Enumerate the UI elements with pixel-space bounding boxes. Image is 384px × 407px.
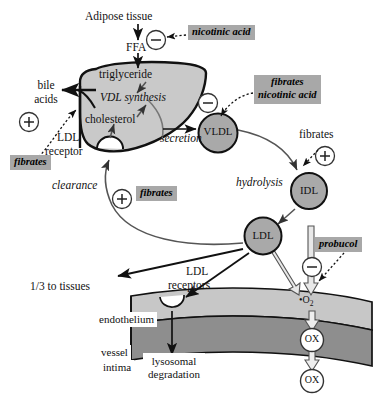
drug-line-fibrates: fibrates	[258, 76, 317, 89]
label-ox-lower: OX	[298, 375, 326, 386]
label-ffa: FFA	[126, 41, 146, 53]
label-one-third-to-tissues: 1/3 to tissues	[30, 280, 90, 292]
label-triglyceride: triglyceride	[99, 68, 152, 80]
label-ldl-receptors-line2: receptors	[168, 279, 210, 291]
drug-fibrates-clearance[interactable]: fibrates	[136, 186, 177, 201]
diagram-vector-layer	[0, 0, 384, 407]
label-vessel-line2: intima	[100, 360, 134, 375]
drug-probucol[interactable]: probucol	[315, 237, 362, 252]
label-vdl-synthesis: VDL synthesis	[100, 91, 166, 103]
dotted-nicotinic-to-ffa	[167, 35, 186, 37]
label-vldl: VLDL	[198, 126, 238, 137]
arrow-ldl-to-tissues	[118, 249, 243, 276]
label-secretion: secretion	[160, 132, 202, 144]
label-idl: IDL	[292, 185, 326, 196]
diagram-canvas: Adipose tissue FFA triglyceride VDL synt…	[0, 0, 384, 407]
arrow-idl-to-ldl	[278, 209, 295, 224]
drug-line-nicotinic-acid: nicotinic acid	[258, 89, 317, 102]
label-hydrolysis: hydrolysis	[236, 176, 283, 188]
label-bile-acids-line2: acids	[28, 93, 64, 105]
label-vessel-line1: vessel	[98, 345, 131, 360]
lysosomal-line1: lysosomal	[148, 355, 200, 368]
label-endothelium: endothelium	[96, 312, 157, 327]
label-ox-upper: OX	[298, 334, 326, 345]
drug-fibrates-nicotinic-acid-secretion[interactable]: fibrates nicotinic acid	[254, 75, 321, 104]
label-ldl-receptors-line1: LDL	[186, 265, 208, 277]
drug-fibrates-hydrolysis[interactable]: fibrates	[299, 128, 333, 140]
label-ldl-receptor-line1: LDL	[57, 131, 79, 143]
arrow-vldl-to-idl	[238, 130, 297, 170]
label-ldl: LDL	[246, 230, 280, 241]
dotted-fibrates-nicotinic-to-secretion	[221, 93, 253, 116]
lysosomal-line2: degradation	[148, 368, 200, 381]
label-cholesterol: cholesterol	[85, 113, 135, 125]
label-superoxide: •O2	[299, 295, 313, 308]
label-adipose-tissue: Adipose tissue	[85, 10, 152, 22]
superoxide-subscript: 2	[310, 299, 314, 308]
drug-fibrates-bile-acids[interactable]: fibrates	[10, 155, 51, 170]
dotted-probucol-to-oxidation	[319, 253, 344, 281]
superoxide-text: •O	[299, 294, 310, 305]
label-lysosomal-degradation: lysosomal degradation	[143, 353, 205, 383]
drug-nicotinic-acid-adipose[interactable]: nicotinic acid	[188, 25, 255, 40]
label-clearance: clearance	[52, 179, 97, 191]
label-bile-acids-line1: bile	[31, 79, 61, 91]
